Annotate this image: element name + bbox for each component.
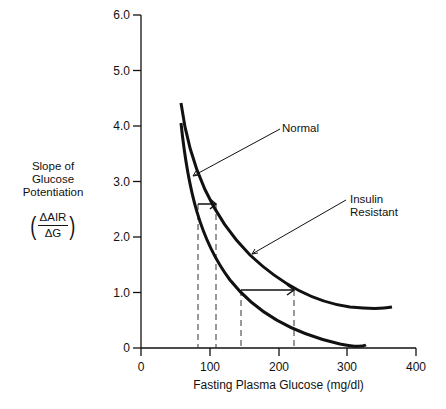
svg-text:0: 0 [138,360,145,374]
y-axis-label: Slope of Glucose Potentiation ( ΔAIR ΔG … [14,160,92,240]
fraction-denominator: ΔG [45,226,62,240]
curve-normal [181,123,366,346]
svg-text:400: 400 [406,360,426,374]
ylabel-line1: Slope of [14,160,92,173]
svg-text:200: 200 [269,360,289,374]
svg-text:1.0: 1.0 [113,286,130,300]
svg-text:5.0: 5.0 [113,64,130,78]
fraction-numerator: ΔAIR [38,211,69,226]
left-paren: ( [30,213,36,239]
svg-text:4.0: 4.0 [113,119,130,133]
y-axis [133,15,141,348]
ylabel-fraction: ( ΔAIR ΔG ) [29,211,77,240]
svg-text:300: 300 [337,360,357,374]
svg-text:0: 0 [123,341,130,355]
y-tick-labels: 6.0 5.0 4.0 3.0 2.0 1.0 0 [113,8,130,355]
ylabel-line3: Potentiation [14,186,92,199]
svg-text:100: 100 [200,360,220,374]
x-axis [141,348,416,356]
annotation-insulin-line2: Resistant [350,206,398,219]
svg-text:6.0: 6.0 [113,8,130,22]
x-axis-label: Fasting Plasma Glucose (mg/dl) [141,378,416,392]
dashed-guides [198,204,294,348]
x-tick-labels: 0 100 200 300 400 [138,360,427,374]
annotation-normal: Normal [282,122,319,135]
annotation-insulin-line1: Insulin [350,193,398,206]
right-paren: ) [70,213,76,239]
annotation-insulin-resistant: Insulin Resistant [350,193,398,219]
svg-text:2.0: 2.0 [113,230,130,244]
svg-text:3.0: 3.0 [113,175,130,189]
ylabel-line2: Glucose [14,173,92,186]
